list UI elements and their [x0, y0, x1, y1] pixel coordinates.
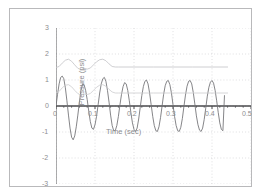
- chart-figure: 3 2 1 0 -1 -2 -3 0 0.1 0.2 0.3 0.4 0.5 P…: [0, 0, 262, 196]
- plot-area: 3 2 1 0 -1 -2 -3 0 0.1 0.2 0.3 0.4 0.5 P…: [56, 28, 251, 184]
- xtick-label-0p2: 0.2: [127, 110, 137, 118]
- x-axis-title: Time (sec): [106, 127, 141, 136]
- xtick-label-0p3: 0.3: [166, 110, 176, 118]
- ytick-label-neg3: -3: [42, 180, 48, 188]
- y-axis-title-text: Pressure (psi): [77, 59, 86, 106]
- ytick-label-1: 1: [45, 76, 49, 84]
- ytick-label-neg1: -1: [42, 128, 48, 136]
- plot-svg: [56, 28, 251, 184]
- xtick-label-0p1: 0.1: [88, 110, 98, 118]
- ytick-label-0: 0: [45, 102, 49, 110]
- ytick-label-2: 2: [45, 50, 49, 58]
- y-axis-title: Pressure (psi): [70, 44, 82, 120]
- ytick-label-neg2: -2: [42, 154, 48, 162]
- ytick-label-3: 3: [45, 24, 49, 32]
- xtick-label-0p5: 0.5: [242, 110, 252, 118]
- xtick-label-0: 0: [53, 110, 57, 118]
- figure-frame: 3 2 1 0 -1 -2 -3 0 0.1 0.2 0.3 0.4 0.5 P…: [9, 8, 252, 187]
- xtick-label-0p4: 0.4: [205, 110, 215, 118]
